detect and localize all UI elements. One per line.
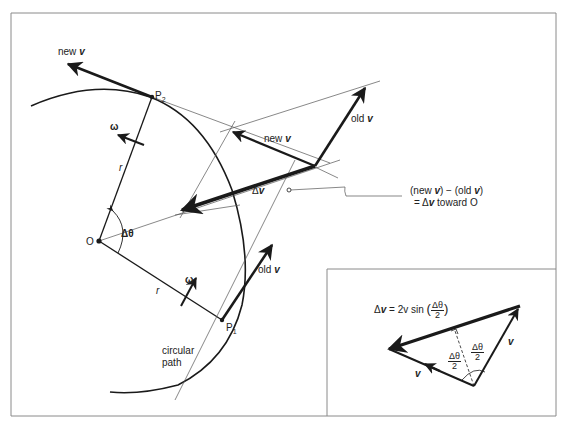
delta-symbol: Δ (252, 185, 259, 196)
inset-label-v-left: v (415, 368, 421, 379)
half-angle-fraction: Δθ2 (471, 343, 484, 362)
label-line: circular (162, 345, 194, 357)
inset-half-angle-right: Δθ2 (471, 343, 484, 362)
label-r-top: r (119, 162, 122, 173)
label-p1: P1 (226, 322, 237, 337)
point-name: P (155, 90, 162, 101)
inset-v-left-arrowhead (425, 364, 440, 371)
label-delta-v: Δv (252, 185, 264, 196)
fraction-denominator: 2 (431, 311, 444, 320)
diagram-canvas (0, 0, 569, 429)
p1-point (220, 318, 224, 322)
delta-v-arrow (182, 166, 315, 210)
annotation-pointer (287, 188, 291, 192)
inset-frame (327, 269, 556, 416)
vector-symbol: v (259, 185, 265, 196)
inset-label-v-right: v (508, 336, 514, 347)
label-old-v-top: old v (351, 113, 373, 124)
annotation-fragment: ) − (old (440, 185, 474, 196)
label-new-v-top: new v (58, 46, 85, 57)
label-text: old (351, 113, 364, 124)
origin-point (96, 238, 101, 243)
label-text: new (264, 133, 282, 144)
label-r-bottom: r (156, 285, 159, 296)
point-subscript: 1 (233, 328, 237, 335)
label-line: path (162, 357, 194, 369)
p2-point (150, 95, 154, 99)
annotation-text: (new v) − (old v) = Δv toward O (410, 185, 483, 209)
inset-half-angle-left: Δθ2 (448, 352, 461, 371)
label-omega-bottom: ω (185, 274, 193, 285)
equation-rhs: = 2v sin (386, 304, 426, 315)
equation-fraction: Δθ2 (431, 301, 444, 320)
label-old-v-bottom: old v (258, 264, 280, 275)
label-p2: P2 (155, 90, 166, 105)
vector-symbol: v (285, 133, 291, 144)
delta-symbol: Δ (374, 304, 381, 315)
annotation-leader (290, 187, 402, 196)
label-circular-path: circular path (162, 345, 194, 369)
point-name: P (226, 322, 233, 333)
half-angle-fraction: Δθ2 (448, 352, 461, 371)
radius-line-p1 (99, 241, 222, 320)
inset-equation: Δv = 2v sin (Δθ2) (374, 301, 448, 320)
annotation-fragment: toward O (434, 197, 477, 208)
label-omega-top: ω (110, 121, 118, 132)
annotation-fragment: ) (480, 185, 483, 196)
old-v-arrow-translated (315, 88, 365, 166)
vector-symbol: v (274, 264, 280, 275)
label-origin: O (86, 236, 94, 247)
fraction-denominator: 2 (471, 353, 484, 362)
radius-line-p2 (99, 97, 152, 241)
vector-symbol: v (79, 46, 85, 57)
fraction-denominator: 2 (448, 362, 461, 371)
paren-close: ) (444, 301, 448, 316)
new-v-arrow-p2 (68, 64, 152, 97)
label-new-v-mid: new v (264, 133, 291, 144)
annotation-fragment: (new (410, 185, 434, 196)
label-delta-theta: Δθ (121, 228, 134, 239)
omega-arrow-top (118, 135, 144, 145)
point-subscript: 2 (162, 96, 166, 103)
annotation-line-2: = Δv toward O (410, 197, 483, 209)
vector-symbol: v (367, 113, 373, 124)
label-text: old (258, 264, 271, 275)
annotation-fragment: = Δ (414, 197, 429, 208)
annotation-line-1: (new v) − (old v) (410, 185, 483, 197)
label-text: new (58, 46, 76, 57)
